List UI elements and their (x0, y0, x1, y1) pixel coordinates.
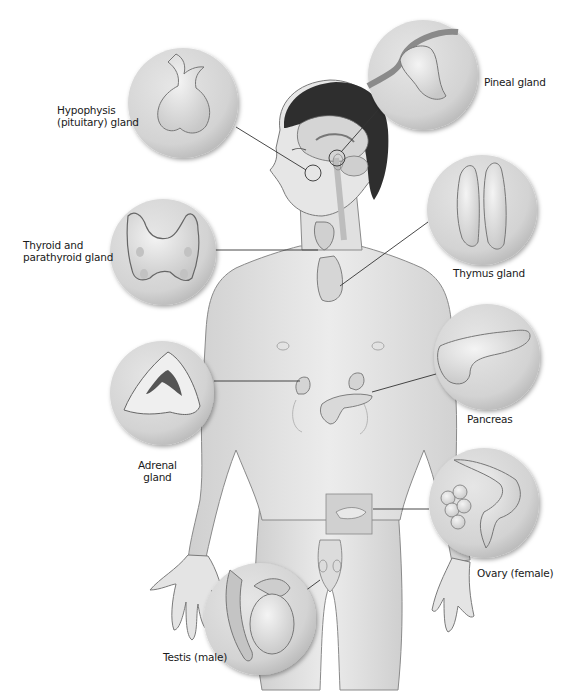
label-hypophysis-line1: Hypophysis (57, 104, 139, 116)
label-testis: Testis (male) (163, 651, 227, 663)
callout-pineal (368, 20, 478, 130)
callout-thymus (427, 155, 537, 265)
label-ovary: Ovary (female) (477, 567, 553, 579)
label-pancreas: Pancreas (467, 413, 513, 425)
label-hypophysis-line2: (pituitary) gland (57, 116, 139, 128)
callout-ovary (429, 448, 539, 558)
callout-pancreas (434, 304, 540, 410)
label-thyroid-line2: parathyroid gland (23, 251, 113, 263)
label-thyroid: Thyroid and parathyroid gland (23, 239, 113, 263)
label-adrenal-line2: gland (138, 471, 177, 483)
label-adrenal: Adrenal gland (138, 459, 177, 483)
endocrine-diagram: Hypophysis (pituitary) gland Pineal glan… (0, 0, 566, 693)
callout-thyroid (110, 199, 216, 305)
callout-hypophysis (128, 48, 238, 158)
label-thymus: Thymus gland (453, 267, 525, 279)
label-pineal: Pineal gland (484, 76, 546, 88)
label-adrenal-line1: Adrenal (138, 459, 177, 471)
callout-adrenal (110, 341, 214, 445)
label-thyroid-line1: Thyroid and (23, 239, 113, 251)
label-hypophysis: Hypophysis (pituitary) gland (57, 104, 139, 128)
